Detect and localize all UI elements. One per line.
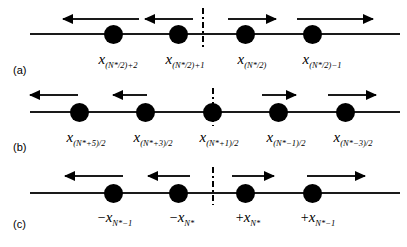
lattice-site-dot — [104, 184, 123, 203]
displacement-arrow-right — [307, 171, 365, 181]
site-label-symbol: x — [106, 209, 113, 225]
symmetry-dash-dot-line — [212, 167, 214, 205]
figure-canvas: (a)x(N*/2)+2x(N*/2)+1x(N*/2)x(N*/2)−1(b)… — [0, 0, 407, 247]
axis-line — [30, 192, 400, 194]
displacement-arrow-left — [148, 171, 190, 181]
arrow-head-right-icon — [264, 171, 275, 181]
displacement-arrow-left — [65, 171, 123, 181]
site-label: +xN* — [236, 210, 261, 227]
site-label: −xN*−1 — [98, 210, 132, 227]
site-label-symbol: x — [309, 209, 316, 225]
panel-tag: (c) — [13, 218, 26, 230]
site-label-symbol: x — [178, 209, 185, 225]
site-label-sign: − — [170, 210, 178, 225]
site-label-subscript: N*−1 — [112, 218, 132, 228]
site-label-symbol: x — [244, 209, 251, 225]
site-label-sign: − — [98, 210, 106, 225]
arrow-head-right-icon — [355, 171, 366, 181]
site-label-subscript: N* — [250, 218, 260, 228]
lattice-site-dot — [169, 184, 188, 203]
displacement-arrow-right — [232, 171, 274, 181]
site-label-sign: + — [301, 210, 309, 225]
lattice-site-dot — [236, 184, 255, 203]
arrow-head-left-icon — [64, 171, 75, 181]
panel-c: (c)−xN*−1−xN*+xN*+xN*−1 — [0, 0, 407, 247]
site-label-subscript: N* — [184, 218, 194, 228]
site-label: +xN*−1 — [301, 210, 335, 227]
lattice-site-dot — [303, 184, 322, 203]
arrow-head-left-icon — [147, 171, 158, 181]
site-label-subscript: N*−1 — [315, 218, 335, 228]
site-label-sign: + — [236, 210, 244, 225]
site-label: −xN* — [170, 210, 195, 227]
